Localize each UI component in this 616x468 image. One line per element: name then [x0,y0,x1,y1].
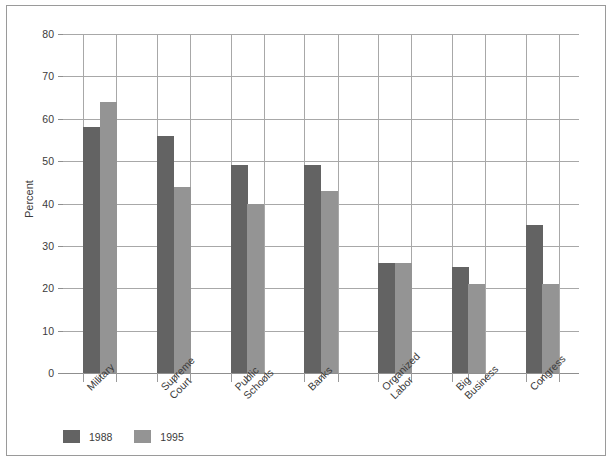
legend-swatch-1988-icon [63,430,80,443]
legend-label-1988: 1988 [89,431,112,443]
y-axis-title: Percent [23,180,35,218]
gridline-horizontal [63,34,579,35]
legend-item-1988: 1988 [63,430,112,443]
y-tick-label: 30 [42,240,54,252]
x-tick-mark [559,373,560,382]
y-tick-mark [58,76,63,77]
x-tick-mark [452,373,453,382]
gridline-vertical [264,34,265,373]
x-tick-mark [378,373,379,382]
gridline-horizontal [63,119,579,120]
bar-1988-big-business [452,267,469,373]
x-tick-mark [304,373,305,382]
y-tick-label: 60 [42,113,54,125]
chart-legend: 1988 1995 [63,430,184,443]
bar-1988-military [83,127,100,373]
y-tick-mark [58,204,63,205]
bar-1988-banks [304,165,321,373]
y-tick-mark [58,161,63,162]
y-tick-label: 50 [42,155,54,167]
gridline-horizontal [63,161,579,162]
x-tick-mark [116,373,117,382]
legend-label-1995: 1995 [160,431,183,443]
gridline-vertical [485,34,486,373]
y-tick-label: 20 [42,282,54,294]
x-tick-mark [157,373,158,382]
y-tick-mark [58,331,63,332]
y-tick-label: 0 [48,367,54,379]
gridline-vertical [559,34,560,373]
chart-frame: Percent 01020304050607080MilitarySupreme… [6,5,606,456]
plot-area: 01020304050607080MilitarySupreme CourtPu… [63,34,579,373]
gridline-horizontal [63,76,579,77]
legend-swatch-1995-icon [134,430,151,443]
bar-1988-congress [526,225,543,373]
bar-1988-supreme-court [157,136,174,373]
legend-item-1995: 1995 [134,430,183,443]
y-tick-label: 40 [42,198,54,210]
bar-1988-public-schools [231,165,248,373]
y-tick-label: 70 [42,70,54,82]
y-tick-mark [58,119,63,120]
y-tick-label: 10 [42,325,54,337]
bar-1995-banks [321,191,338,373]
bar-1995-military [100,102,117,373]
bar-1995-public-schools [247,204,264,374]
bar-1988-organized-labor [378,263,395,373]
x-tick-mark [526,373,527,382]
x-tick-mark [338,373,339,382]
y-tick-mark [58,288,63,289]
gridline-vertical [338,34,339,373]
y-tick-mark [58,373,63,374]
x-tick-mark [231,373,232,382]
y-tick-mark [58,34,63,35]
x-tick-mark [83,373,84,382]
y-tick-mark [58,246,63,247]
bar-1995-supreme-court [174,187,191,373]
y-tick-label: 80 [42,28,54,40]
